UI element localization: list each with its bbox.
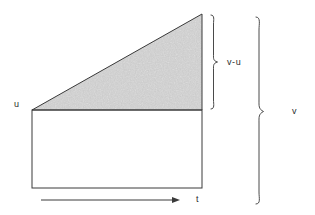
label-final-velocity: v: [292, 106, 297, 116]
base-rectangle: [32, 110, 202, 188]
velocity-time-diagram: u v-u v t: [0, 0, 315, 215]
shaded-triangle: [32, 14, 202, 110]
time-axis-arrow-head: [172, 197, 180, 203]
brace-v: [256, 17, 264, 204]
diagram-canvas: [0, 0, 315, 215]
brace-v-minus-u: [211, 15, 218, 109]
label-initial-velocity: u: [14, 99, 20, 109]
label-velocity-increment: v-u: [227, 57, 241, 67]
label-time-axis: t: [196, 194, 199, 204]
time-axis-arrow: [41, 197, 180, 203]
